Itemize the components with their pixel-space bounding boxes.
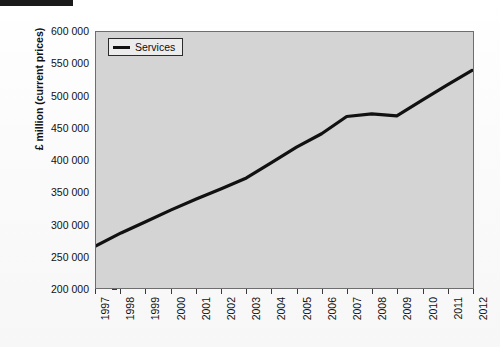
x-tick-label: 2005 bbox=[301, 297, 313, 320]
x-tick-mark bbox=[448, 289, 449, 294]
x-tick-label: 2008 bbox=[376, 297, 388, 320]
y-axis-ticks: 200 000250 000300 000350 000400 000450 0… bbox=[23, 31, 89, 289]
x-tick-mark bbox=[297, 289, 298, 294]
y-tick-label: 550 000 bbox=[25, 57, 89, 69]
x-tick-mark bbox=[473, 289, 474, 294]
x-tick-label: 2010 bbox=[427, 297, 439, 320]
chart-legend: Services bbox=[108, 38, 183, 56]
x-tick-mark bbox=[171, 289, 172, 294]
x-tick-label: 2004 bbox=[275, 297, 287, 320]
y-tick-label: 350 000 bbox=[25, 186, 89, 198]
x-tick-mark bbox=[221, 289, 222, 294]
series-plot-svg bbox=[96, 32, 473, 288]
x-tick-label: 2009 bbox=[401, 297, 413, 320]
x-tick-label: 2002 bbox=[225, 297, 237, 320]
x-tick-mark bbox=[95, 289, 96, 294]
line-chart-figure: £ million (current prices) 200 000250 00… bbox=[0, 0, 500, 347]
x-tick-mark bbox=[120, 289, 121, 294]
plot-area: Services bbox=[95, 31, 474, 289]
x-tick-label: 2007 bbox=[351, 297, 363, 320]
y-tick-label: 300 000 bbox=[25, 219, 89, 231]
x-tick-mark bbox=[322, 289, 323, 294]
x-tick-label: 2011 bbox=[452, 297, 464, 320]
x-tick-label: 1999 bbox=[149, 297, 161, 320]
page-canvas: the increase in output across the servic… bbox=[0, 0, 500, 347]
series-line-services bbox=[96, 70, 472, 245]
x-tick-label: 2012 bbox=[477, 297, 489, 320]
x-tick-label: 2000 bbox=[175, 297, 187, 320]
x-tick-mark bbox=[423, 289, 424, 294]
y-tick-label: 450 000 bbox=[25, 122, 89, 134]
legend-swatch-services bbox=[113, 46, 130, 49]
x-tick-label: 2003 bbox=[250, 297, 262, 320]
x-tick-label: 2006 bbox=[326, 297, 338, 320]
legend-label-services: Services bbox=[135, 41, 175, 53]
x-tick-label: 1998 bbox=[124, 297, 136, 320]
y-tick-label: 600 000 bbox=[25, 25, 89, 37]
x-axis-ticks: 1997199819992000200120022003200420052006… bbox=[95, 289, 474, 345]
x-tick-mark bbox=[196, 289, 197, 294]
y-tick-label: 500 000 bbox=[25, 90, 89, 102]
x-tick-mark bbox=[397, 289, 398, 294]
x-tick-mark bbox=[145, 289, 146, 294]
y-tick-label: 400 000 bbox=[25, 154, 89, 166]
x-tick-mark bbox=[246, 289, 247, 294]
y-tick-label: 200 000 bbox=[25, 283, 89, 295]
x-tick-mark bbox=[271, 289, 272, 294]
y-tick-label: 250 000 bbox=[25, 251, 89, 263]
x-tick-mark bbox=[347, 289, 348, 294]
x-tick-label: 2001 bbox=[200, 297, 212, 320]
x-tick-mark bbox=[372, 289, 373, 294]
x-tick-label: 1997 bbox=[99, 297, 111, 320]
